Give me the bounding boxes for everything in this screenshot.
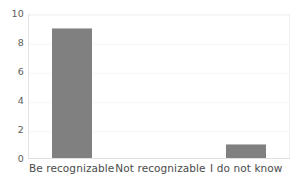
bar-slot bbox=[29, 15, 116, 158]
y-axis-tick-label: 0 bbox=[0, 154, 24, 164]
bar bbox=[226, 144, 266, 159]
bar bbox=[52, 28, 92, 159]
plot-area bbox=[28, 14, 290, 159]
y-axis-tick-label: 4 bbox=[0, 96, 24, 106]
bars-layer bbox=[29, 15, 289, 158]
x-axis-category-label: I do not know bbox=[203, 161, 290, 175]
bar-chart: 0246810 Be recognizableNot recognizableI… bbox=[0, 0, 296, 186]
x-axis-category-labels: Be recognizableNot recognizableI do not … bbox=[28, 161, 290, 183]
bar-slot bbox=[202, 15, 289, 158]
y-axis-tick-label: 10 bbox=[0, 9, 24, 19]
y-axis-tick-label: 8 bbox=[0, 38, 24, 48]
y-axis-tick-label: 2 bbox=[0, 125, 24, 135]
x-axis-category-label: Be recognizable bbox=[28, 161, 115, 175]
bar-slot bbox=[116, 15, 203, 158]
x-axis-category-label: Not recognizable bbox=[115, 161, 202, 175]
y-axis-tick-labels: 0246810 bbox=[0, 14, 24, 159]
y-axis-tick-label: 6 bbox=[0, 67, 24, 77]
